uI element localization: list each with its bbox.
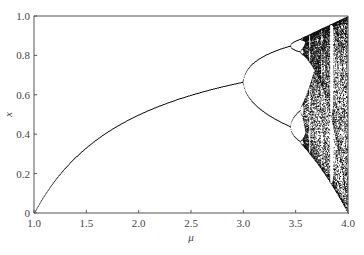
y-tick-label: 0.8 — [16, 49, 30, 61]
y-tick-label: 0 — [25, 207, 31, 219]
x-tick-label: 1.5 — [79, 217, 93, 229]
y-tick-label: 0.6 — [16, 89, 30, 101]
y-tick-label: 1.0 — [16, 10, 30, 22]
x-tick-label: 4.0 — [341, 217, 355, 229]
attractor-points — [34, 16, 349, 214]
x-tick-label: 3.5 — [289, 217, 303, 229]
y-tick-label: 0.4 — [16, 128, 30, 140]
x-tick-label: 2.0 — [132, 217, 146, 229]
y-axis-label: x — [2, 112, 14, 118]
bifurcation-chart: 1.01.52.02.53.03.54.0 00.20.40.60.81.0 μ… — [0, 0, 364, 255]
attractor-point-cloud — [34, 16, 349, 214]
y-tick-label: 0.2 — [16, 168, 30, 180]
axes — [34, 16, 348, 213]
x-tick-label: 2.5 — [184, 217, 198, 229]
x-tick-label: 3.0 — [236, 217, 250, 229]
x-axis-label: μ — [187, 231, 194, 243]
